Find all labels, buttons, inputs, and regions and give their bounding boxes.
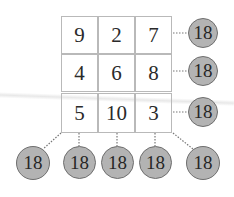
grid-cell-r3c1: 5 — [61, 93, 98, 133]
column-sum-1: 18 — [63, 146, 96, 179]
grid-cell-r1c1: 9 — [61, 16, 98, 54]
grid-cell-r2c1: 4 — [61, 54, 98, 92]
magic-square-diagram: 9 2 7 4 6 8 5 10 3 18 18 18 18 18 18 18 … — [0, 0, 234, 197]
row-sum-1: 18 — [188, 18, 218, 48]
column-sum-2: 18 — [101, 146, 134, 179]
column-sum-3: 18 — [139, 146, 172, 179]
grid-cell-r1c3: 7 — [135, 16, 172, 54]
grid-cell-r3c3: 3 — [135, 93, 172, 133]
row-sum-2: 18 — [188, 56, 218, 86]
grid-cell-r2c3: 8 — [135, 54, 172, 92]
grid-cell-r1c2: 2 — [98, 16, 135, 54]
diagonal-sum-anti: 18 — [16, 146, 50, 180]
row-sum-3: 18 — [188, 97, 218, 127]
grid-cell-r2c2: 6 — [98, 54, 135, 92]
diagonal-sum-main: 18 — [186, 146, 220, 180]
grid-cell-r3c2: 10 — [98, 93, 135, 133]
